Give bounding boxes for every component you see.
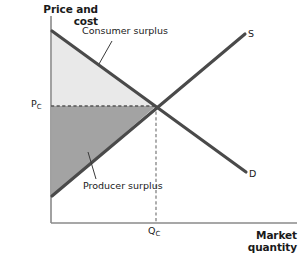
- supply-curve-label: S: [248, 29, 254, 40]
- consumer-surplus-label: Consumer surplus: [82, 26, 168, 37]
- equilibrium-price-symbol: P: [31, 98, 37, 109]
- x-axis-title: Market quantity: [233, 230, 297, 254]
- equilibrium-price-subscript: C: [37, 103, 42, 111]
- demand-curve-label: D: [249, 169, 256, 180]
- equilibrium-price-label: PC: [31, 99, 42, 110]
- supply-demand-figure: Price and cost Market quantity Consumer …: [0, 0, 301, 261]
- producer-surplus-label: Producer surplus: [83, 181, 163, 192]
- consumer-surplus-leader-line: [99, 41, 112, 64]
- equilibrium-quantity-subscript: C: [155, 230, 160, 238]
- diagram-canvas: [0, 0, 301, 261]
- y-axis-title: Price and cost: [6, 4, 98, 28]
- equilibrium-quantity-label: QC: [148, 226, 160, 237]
